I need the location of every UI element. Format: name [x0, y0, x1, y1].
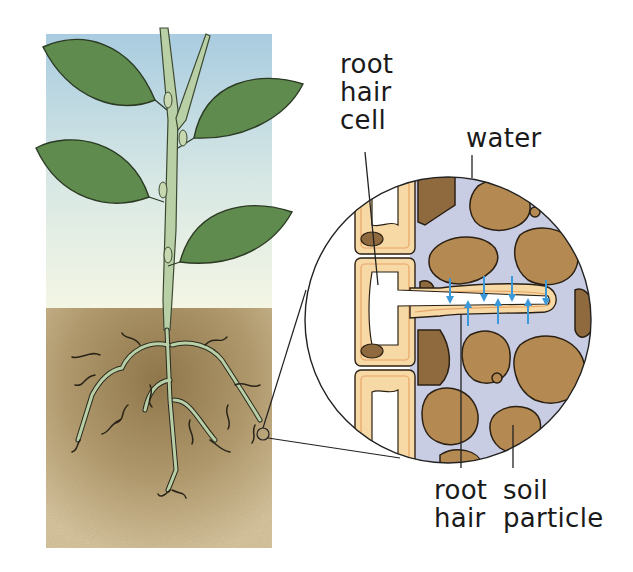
label-water: water [466, 124, 542, 152]
label-line: water [466, 124, 542, 152]
label-line: root [434, 476, 487, 504]
label-line: hair [340, 78, 393, 106]
label-line: cell [340, 106, 393, 134]
magnified-view [305, 170, 610, 480]
label-soil-particle: soil particle [503, 476, 603, 532]
label-root-hair: root hair [434, 476, 487, 532]
root-hair-diagram: root hair cell water root hair soil part… [0, 0, 633, 572]
label-line: particle [503, 504, 603, 532]
label-line: soil [503, 476, 603, 504]
label-line: hair [434, 504, 487, 532]
label-line: root [340, 50, 393, 78]
label-root-hair-cell: root hair cell [340, 50, 393, 134]
